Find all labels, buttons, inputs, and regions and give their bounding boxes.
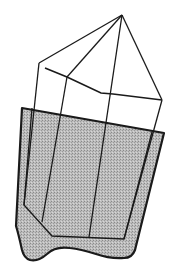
ridge-line [45, 68, 162, 100]
edge-apex-right [122, 15, 162, 100]
crystal-diagram [0, 0, 187, 280]
edge-apex-left [39, 15, 122, 63]
diagram-canvas [0, 0, 187, 280]
